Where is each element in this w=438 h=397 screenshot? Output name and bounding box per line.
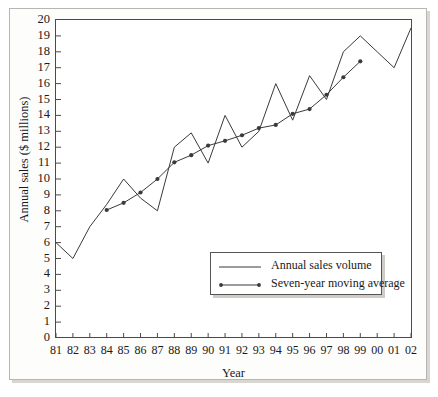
x-tick-label: 02 (400, 344, 422, 356)
y-tick-label: 20 (28, 13, 50, 26)
y-tick-label: 0 (28, 331, 50, 344)
y-tick-label: 6 (28, 236, 50, 249)
y-tick-label: 4 (28, 267, 50, 280)
y-tick-label: 3 (28, 283, 50, 296)
legend-swatch-dotted-line-icon (217, 277, 263, 289)
y-tick-label: 14 (28, 108, 50, 121)
legend-entry-seven-year-moving-average: Seven-year moving average (217, 274, 405, 292)
y-tick-label: 7 (28, 220, 50, 233)
y-tick-label: 5 (28, 252, 50, 265)
legend-label-annual-sales-volume: Annual sales volume (271, 258, 372, 273)
y-tick-label: 19 (28, 29, 50, 42)
legend-label-seven-year-moving-average: Seven-year moving average (271, 276, 405, 291)
y-tick-label: 2 (28, 299, 50, 312)
y-tick-label: 15 (28, 93, 50, 106)
y-tick-label: 12 (28, 140, 50, 153)
legend: Annual sales volume Seven-year moving av… (210, 252, 382, 295)
y-tick-label: 17 (28, 61, 50, 74)
y-tick-label: 13 (28, 124, 50, 137)
y-tick-label: 18 (28, 45, 50, 58)
y-tick-label: 16 (28, 77, 50, 90)
y-tick-label: 11 (28, 156, 50, 169)
figure-container: Annual sales ($ millions) Year 012345678… (0, 0, 438, 397)
y-tick-label: 8 (28, 204, 50, 217)
x-axis-title: Year (55, 366, 412, 381)
legend-swatch-line-icon (217, 259, 263, 271)
legend-entry-annual-sales-volume: Annual sales volume (217, 256, 372, 274)
y-tick-label: 1 (28, 315, 50, 328)
y-tick-label: 10 (28, 172, 50, 185)
y-tick-label: 9 (28, 188, 50, 201)
